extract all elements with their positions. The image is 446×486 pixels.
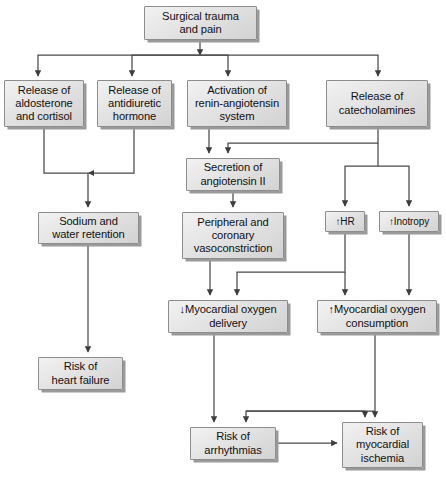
node-label: Activation of renin-angiotensin system	[191, 84, 283, 124]
node-surgical-trauma: Surgical trauma and pain	[144, 6, 257, 40]
node-activation-renin-angiotensin-system: Activation of renin-angiotensin system	[187, 80, 287, 127]
flowchart-diagram: Surgical trauma and pain Release of aldo…	[0, 0, 446, 486]
node-label: Release of aldosterone and cortisol	[8, 84, 80, 124]
node-label: Risk of heart failure	[42, 360, 119, 386]
edge-group-catechol-to-hr-inotropy	[345, 143, 409, 206]
node-label: Risk of arrhythmias	[194, 430, 272, 456]
node-label: ↑HR	[329, 215, 361, 228]
node-label: ↑Inotropy	[383, 215, 435, 228]
node-peripheral-coronary-vasoconstriction: Peripheral and coronary vasoconstriction	[182, 212, 284, 259]
node-label: Surgical trauma and pain	[148, 10, 253, 36]
node-label: ↑Myocardial oxygen consumption	[321, 303, 433, 329]
node-release-aldosterone-cortisol: Release of aldosterone and cortisol	[4, 80, 84, 127]
node-risk-of-heart-failure: Risk of heart failure	[38, 357, 123, 390]
node-risk-of-arrhythmias: Risk of arrhythmias	[190, 427, 276, 460]
edge-group-to-sodium-water	[44, 128, 134, 207]
node-release-antidiuretic-hormone: Release of antidiuretic hormone	[97, 80, 172, 127]
node-decreased-myocardial-oxygen-delivery: ↓Myocardial oxygen delivery	[168, 300, 288, 333]
node-increased-inotropy: ↑Inotropy	[379, 211, 439, 232]
node-sodium-water-retention: Sodium and water retention	[38, 212, 139, 244]
node-label: Sodium and water retention	[42, 215, 135, 241]
node-label: Secretion of angiotensin II	[190, 161, 276, 187]
node-label: Release of catecholamines	[330, 90, 424, 116]
node-label: ↓Myocardial oxygen delivery	[172, 303, 284, 329]
edge-group-top-fanout	[38, 41, 378, 76]
node-label: Risk of myocardial ischemia	[346, 425, 419, 465]
node-label: Release of antidiuretic hormone	[101, 84, 168, 124]
node-increased-myocardial-oxygen-consumption: ↑Myocardial oxygen consumption	[317, 300, 437, 333]
node-label: Peripheral and coronary vasoconstriction	[186, 216, 280, 256]
node-risk-of-myocardial-ischemia: Risk of myocardial ischemia	[342, 422, 423, 468]
node-release-catecholamines: Release of catecholamines	[326, 80, 428, 127]
edge-group-raas-catechol-to-angiotensin	[209, 128, 378, 153]
node-increased-heart-rate: ↑HR	[325, 211, 365, 232]
node-secretion-angiotensin-ii: Secretion of angiotensin II	[186, 158, 280, 191]
edge-group-mo2-to-outcomes	[214, 334, 375, 422]
